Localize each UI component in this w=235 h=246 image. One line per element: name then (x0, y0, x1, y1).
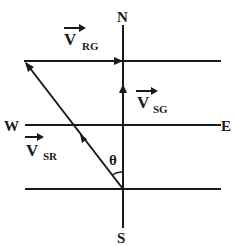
west-label: W (4, 118, 19, 134)
svg-text:RG: RG (82, 40, 99, 52)
v-sg-label: V SG (136, 87, 168, 115)
svg-text:V: V (64, 30, 77, 49)
v-sr-overarrow-icon (37, 133, 44, 141)
svg-text:SR: SR (43, 150, 58, 162)
v-sr-label: V SR (25, 133, 58, 162)
v-sg-overarrow-icon (151, 87, 158, 95)
south-label: S (117, 230, 125, 246)
svg-text:SG: SG (153, 103, 168, 115)
theta-arc (112, 172, 123, 175)
v-rg-arrowhead (114, 57, 123, 65)
svg-text:V: V (26, 141, 39, 160)
v-sg-arrowhead (119, 84, 127, 93)
theta-label: θ (109, 152, 117, 168)
east-label: E (221, 118, 231, 134)
v-rg-label: V RG (64, 24, 99, 52)
svg-text:V: V (137, 93, 150, 112)
v-rg-overarrow-icon (79, 24, 86, 32)
river-vector-diagram: N S W E V RG V SG V SR θ (0, 0, 235, 246)
north-label: N (117, 9, 128, 25)
